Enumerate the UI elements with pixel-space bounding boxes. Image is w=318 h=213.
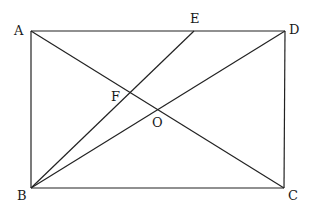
segment-be [31, 31, 194, 188]
label-o: O [152, 115, 163, 130]
label-a: A [13, 23, 24, 38]
label-b: B [17, 188, 27, 203]
segment-dc [284, 31, 285, 188]
geometry-diagram: A D B C E F O [0, 0, 318, 213]
label-d: D [289, 22, 299, 37]
label-c: C [288, 188, 298, 203]
label-e: E [190, 11, 200, 26]
label-f: F [111, 89, 120, 104]
